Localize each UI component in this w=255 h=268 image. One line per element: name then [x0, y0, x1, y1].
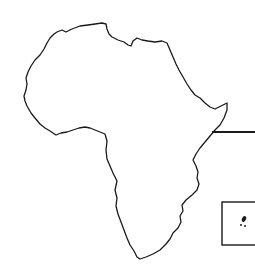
inset-box [222, 202, 255, 245]
africa-outline [24, 23, 227, 259]
africa-map [0, 0, 255, 268]
